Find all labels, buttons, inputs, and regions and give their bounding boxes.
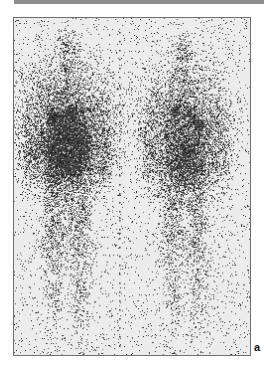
- scintigram-image: [13, 17, 251, 356]
- top-rule: [14, 0, 264, 4]
- panel-label: a: [254, 342, 260, 353]
- scintigram-canvas: [14, 18, 250, 355]
